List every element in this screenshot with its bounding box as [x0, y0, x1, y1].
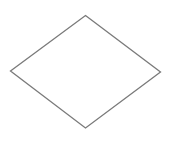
diagram-canvas: [0, 0, 178, 147]
diagram-svg: [0, 0, 178, 147]
decision-diamond-shape: [11, 16, 161, 129]
